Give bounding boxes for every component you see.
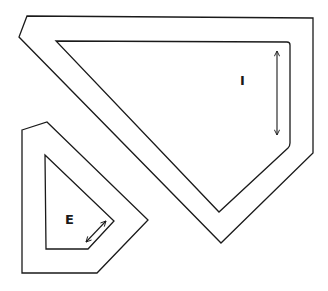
small-outer-boundary xyxy=(22,122,148,273)
diagram-canvas: I E xyxy=(0,0,328,291)
small-inner-boundary xyxy=(45,155,114,249)
external-dimension-arrow xyxy=(86,221,106,242)
large-outer-boundary xyxy=(19,16,313,243)
large-inner-boundary xyxy=(56,41,290,212)
internal-label: I xyxy=(240,73,245,88)
external-label: E xyxy=(65,212,74,227)
